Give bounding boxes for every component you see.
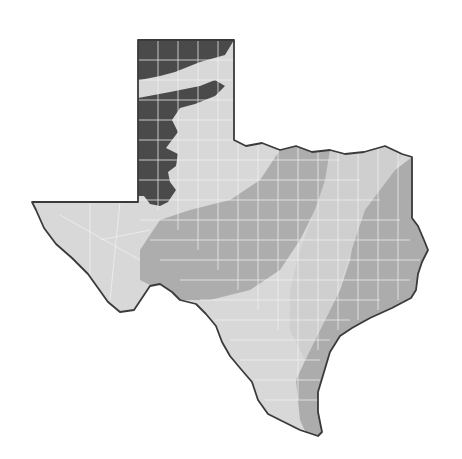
texas-map [0, 0, 462, 459]
map-container [0, 0, 462, 459]
